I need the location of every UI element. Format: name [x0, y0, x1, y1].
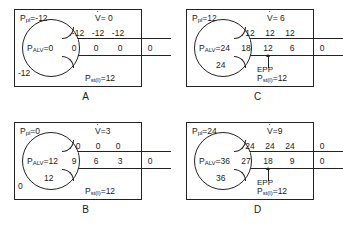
- lower-row-value: 18: [256, 157, 280, 166]
- flow-value: = 6: [273, 13, 285, 23]
- static-recoil-pressure-label: Pst(l)=12: [257, 74, 287, 83]
- alveolus-inner-number: 24: [216, 61, 225, 70]
- lower-row-value: 9: [280, 157, 304, 166]
- alveolus-inner-number: 36: [216, 174, 225, 183]
- palv-value: =24: [216, 43, 230, 53]
- alveolar-pressure-label: PALV=0: [27, 44, 53, 53]
- epp-arrow-head: [266, 167, 270, 170]
- epp-arrow-head: [266, 54, 270, 57]
- lower-row-value: 0: [138, 44, 162, 53]
- airway-wall-lower: [70, 55, 171, 56]
- airway-wall-lower: [242, 55, 343, 56]
- panel-letter: C: [172, 92, 343, 102]
- palv-value: =0: [44, 43, 54, 53]
- airflow-label: V=3: [95, 127, 110, 136]
- flow-value: =9: [273, 126, 283, 136]
- panel-b: Ppl=0 V=3 PALV=12 Pst(l)=12 12 0 B 00096…: [0, 113, 171, 225]
- static-recoil-pressure-label: Pst(l)=12: [85, 74, 115, 83]
- lower-row-value: 0: [310, 157, 334, 166]
- panel-d: Ppl=24 V=9 PALV=36 Pst(l)=12 36 D 242424…: [172, 113, 343, 225]
- airflow-label: V= 0: [95, 14, 113, 23]
- palv-value: =36: [216, 156, 230, 166]
- alveolus-inner-number: 12: [44, 174, 53, 183]
- thorax-corner-number: -12: [18, 69, 30, 78]
- airway-wall-lower: [242, 168, 343, 169]
- thorax-corner-number: 0: [18, 182, 23, 191]
- flow-value: = 0: [101, 13, 113, 23]
- pst-subscript: st(l): [91, 190, 101, 196]
- alveolar-pressure-label: PALV=36: [199, 157, 230, 166]
- ppl-value: =24: [202, 126, 216, 136]
- upper-row-value: 24: [278, 142, 302, 151]
- flow-symbol: V: [95, 126, 101, 136]
- pst-value: =12: [273, 73, 287, 83]
- alveolar-pressure-label: PALV=24: [199, 44, 230, 53]
- pst-value: =12: [101, 73, 115, 83]
- pst-value: =12: [101, 186, 115, 196]
- figure-root: Ppl=-12 V= 0 PALV=0 Pst(l)=12 -12 A -12-…: [0, 0, 343, 225]
- static-recoil-pressure-label: Pst(l)=12: [85, 187, 115, 196]
- lower-row-value: 9: [62, 157, 86, 166]
- pst-subscript: st(l): [263, 77, 273, 83]
- lower-row-value: 3: [108, 157, 132, 166]
- palv-value: =12: [44, 156, 58, 166]
- pleural-pressure-label: Ppl=-12: [20, 14, 48, 23]
- lower-row-value: 6: [280, 44, 304, 53]
- v-dot-icon: V: [95, 14, 101, 23]
- lower-row-value: 0: [310, 44, 334, 53]
- airway-wall-upper: [242, 151, 343, 152]
- epp-label: EPP: [257, 66, 273, 74]
- v-dot-icon: V: [267, 127, 273, 136]
- pst-subscript: st(l): [263, 190, 273, 196]
- palv-subscript: ALV: [205, 47, 216, 53]
- airway-wall-upper: [242, 38, 343, 39]
- lower-row-value: 0: [84, 44, 108, 53]
- palv-subscript: ALV: [33, 47, 44, 53]
- pleural-pressure-label: Ppl=12: [192, 14, 217, 23]
- upper-row-value: -12: [106, 29, 130, 38]
- upper-row-value: 0: [310, 142, 334, 151]
- lower-row-value: 6: [84, 157, 108, 166]
- airflow-label: V=9: [267, 127, 282, 136]
- palv-subscript: ALV: [205, 160, 216, 166]
- pst-subscript: st(l): [91, 77, 101, 83]
- static-recoil-pressure-label: Pst(l)=12: [257, 187, 287, 196]
- ppl-value: =-12: [30, 13, 47, 23]
- flow-symbol: V: [95, 13, 101, 23]
- v-dot-icon: V: [267, 14, 273, 23]
- flow-symbol: V: [267, 126, 273, 136]
- pleural-pressure-label: Ppl=0: [20, 127, 40, 136]
- v-dot-icon: V: [95, 127, 101, 136]
- airway-wall-upper: [70, 38, 171, 39]
- flow-symbol: V: [267, 13, 273, 23]
- lower-row-value: 0: [62, 44, 86, 53]
- panel-letter: D: [172, 205, 343, 215]
- palv-subscript: ALV: [33, 160, 44, 166]
- pleural-pressure-label: Ppl=24: [192, 127, 217, 136]
- ppl-value: =0: [30, 126, 40, 136]
- lower-row-value: 18: [234, 44, 258, 53]
- panel-letter: A: [0, 92, 171, 102]
- upper-row-value: 0: [106, 142, 130, 151]
- alveolar-pressure-label: PALV=12: [27, 157, 58, 166]
- lower-row-value: 0: [138, 157, 162, 166]
- lower-row-value: 27: [234, 157, 258, 166]
- pst-value: =12: [273, 186, 287, 196]
- epp-label: EPP: [257, 179, 273, 187]
- lower-row-value: 0: [108, 44, 132, 53]
- airway-wall-upper: [70, 151, 171, 152]
- ppl-value: =12: [202, 13, 216, 23]
- flow-value: =3: [101, 126, 111, 136]
- panel-c: Ppl=12 V= 6 PALV=24 Pst(l)=12 24 C 12121…: [172, 0, 343, 112]
- panel-a: Ppl=-12 V= 0 PALV=0 Pst(l)=12 -12 A -12-…: [0, 0, 171, 112]
- panel-letter: B: [0, 205, 171, 215]
- airflow-label: V= 6: [267, 14, 285, 23]
- upper-row-value: 12: [278, 29, 302, 38]
- lower-row-value: 12: [256, 44, 280, 53]
- airway-wall-lower: [70, 168, 171, 169]
